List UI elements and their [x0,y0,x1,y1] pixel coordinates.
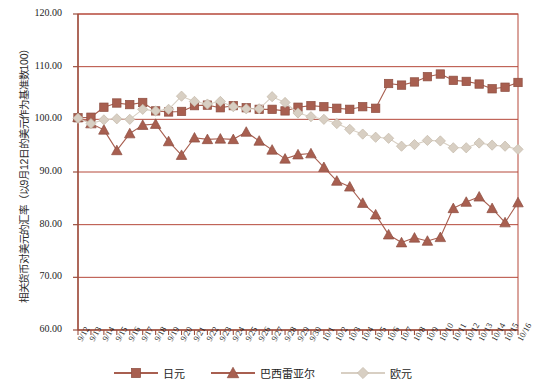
square-marker-icon [320,102,328,110]
y-tick-label: 110.00 [16,60,62,71]
square-marker-icon [397,81,405,89]
square-marker-icon [131,368,140,377]
diamond-marker-icon [356,366,370,380]
y-tick-label: 90.00 [16,165,62,176]
square-marker-icon [514,78,522,86]
square-marker-icon [462,77,470,85]
legend-swatch [211,366,255,380]
square-marker-icon [126,100,134,108]
diamond-marker-icon [357,367,368,378]
legend-swatch [341,366,385,380]
y-tick-label: 100.00 [16,112,62,123]
legend-swatch [114,366,158,380]
chart-legend: 日元巴西雷亚尔欧元 [0,360,526,386]
square-marker-icon [113,99,121,107]
y-tick-label: 70.00 [16,270,62,281]
y-tick-label: 120.00 [16,7,62,18]
triangle-marker-icon [227,367,239,377]
square-marker-icon [410,78,418,86]
y-axis-tick-labels: 120.00110.00100.0090.0080.0070.0060.00 [14,0,62,390]
square-marker-icon [359,102,367,110]
square-marker-icon [333,104,341,112]
legend-item-3[interactable]: 欧元 [341,365,412,381]
y-tick-label: 80.00 [16,218,62,229]
legend-label: 巴西雷亚尔 [260,365,315,381]
square-marker-icon [449,76,457,84]
square-marker-icon [100,103,108,111]
square-marker-icon [475,80,483,88]
square-marker-icon [346,105,354,113]
square-marker-icon [436,70,444,78]
triangle-marker-icon [226,366,240,380]
square-marker-icon [384,79,392,87]
legend-item-2[interactable]: 巴西雷亚尔 [211,365,315,381]
square-marker-icon [423,72,431,80]
square-marker-icon [488,85,496,93]
legend-label: 欧元 [390,365,412,381]
legend-label: 日元 [163,365,185,381]
legend-item-1[interactable]: 日元 [114,365,185,381]
square-marker-icon [268,105,276,113]
square-marker-icon [129,366,143,380]
square-marker-icon [371,104,379,112]
y-tick-label: 60.00 [16,323,62,334]
square-marker-icon [177,107,185,115]
square-marker-icon [501,83,509,91]
square-marker-icon [307,101,315,109]
